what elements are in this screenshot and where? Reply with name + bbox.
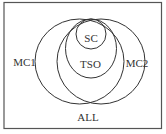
- label-mc2: MC2: [126, 57, 149, 69]
- label-mc1: MC1: [13, 56, 36, 68]
- label-tso: TSO: [80, 58, 101, 70]
- label-all: ALL: [77, 111, 99, 123]
- label-sc: SC: [84, 32, 97, 44]
- venn-diagram: SC TSO MC1 MC2 ALL: [0, 0, 166, 134]
